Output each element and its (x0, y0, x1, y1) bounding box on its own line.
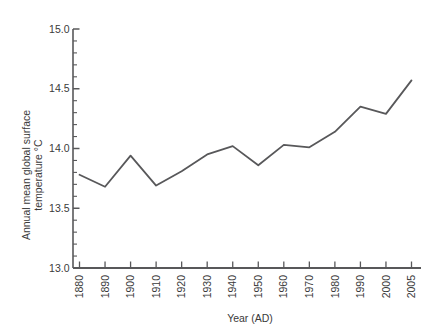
x-tick-label: 1880 (73, 275, 85, 299)
x-tick-label: 1900 (124, 275, 136, 299)
x-tick-label: 1920 (175, 275, 187, 299)
y-tick-label: 13.0 (49, 262, 70, 274)
y-tick-label: 13.5 (49, 202, 70, 214)
x-tick-label: 1990 (354, 275, 366, 299)
x-tick-label: 1970 (303, 275, 315, 299)
x-tick-label: 2000 (380, 275, 392, 299)
line-chart-svg: 13.013.514.014.515.0 1880189019001910192… (0, 0, 447, 328)
chart-figure: 13.013.514.014.515.0 1880189019001910192… (0, 0, 447, 328)
y-tick-label: 15.0 (49, 23, 70, 35)
x-tick-label: 1980 (329, 275, 341, 299)
x-tick-label: 1940 (226, 275, 238, 299)
x-tick-label: 1910 (150, 275, 162, 299)
y-tick-label: 14.0 (49, 142, 70, 154)
x-tick-label: 2005 (405, 275, 417, 299)
x-tick-label: 1950 (252, 275, 264, 299)
x-tick-label: 1890 (99, 275, 111, 299)
y-tick-label: 14.5 (49, 82, 70, 94)
x-tick-label: 1930 (201, 275, 213, 299)
x-tick-label: 1960 (278, 275, 290, 299)
x-axis-title: Year (AD) (227, 312, 273, 324)
y-axis-title-line-1: Annual mean global surface (20, 110, 32, 240)
y-axis-title-line-2: temperature °C (32, 139, 44, 211)
